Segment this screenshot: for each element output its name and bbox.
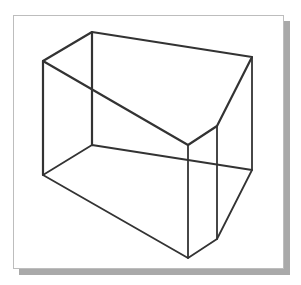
bottom-face <box>43 145 252 258</box>
top-face <box>43 32 252 145</box>
prism-wireframe <box>0 0 301 285</box>
